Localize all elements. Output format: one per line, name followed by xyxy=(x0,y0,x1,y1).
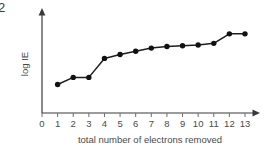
data-point xyxy=(211,41,216,46)
ionisation-energy-line-chart: 012345678910111213 log IE total number o… xyxy=(0,0,270,150)
data-point xyxy=(180,43,185,48)
x-axis-tick-label: 1 xyxy=(55,118,60,129)
figure-container: 2 012345678910111213 log IE total number… xyxy=(0,0,270,150)
data-point xyxy=(195,42,200,47)
data-point xyxy=(86,75,91,80)
x-axis-tick-label: 2 xyxy=(71,118,76,129)
x-axis-tick-label: 9 xyxy=(180,118,185,129)
y-axis xyxy=(39,8,46,113)
x-axis-tick-label: 10 xyxy=(193,118,204,129)
data-point xyxy=(227,31,232,36)
data-point xyxy=(55,82,60,87)
x-axis-tick-labels: 012345678910111213 xyxy=(39,118,250,129)
x-axis-tick-label: 7 xyxy=(149,118,154,129)
x-axis-tick-label: 8 xyxy=(164,118,169,129)
x-axis-title: total number of electrons removed xyxy=(78,134,222,145)
data-point xyxy=(149,45,154,50)
data-point xyxy=(164,44,169,49)
x-axis-tick-label: 13 xyxy=(240,118,251,129)
data-point xyxy=(71,75,76,80)
data-point xyxy=(242,31,247,36)
x-axis-tick-label: 6 xyxy=(133,118,138,129)
y-axis-title: log IE xyxy=(19,52,30,76)
x-axis-tick-label: 5 xyxy=(117,118,122,129)
x-axis-tick-label: 12 xyxy=(224,118,235,129)
data-series-line xyxy=(58,34,245,85)
data-point xyxy=(102,56,107,61)
x-axis-arrow-icon xyxy=(253,110,261,117)
x-axis-tick-label: 0 xyxy=(39,118,44,129)
data-point xyxy=(133,49,138,54)
x-axis-tick-label: 3 xyxy=(86,118,91,129)
x-axis-tick-label: 4 xyxy=(102,118,107,129)
y-axis-arrow-icon xyxy=(39,8,46,16)
data-point xyxy=(117,52,122,57)
x-axis-tick-label: 11 xyxy=(209,118,219,129)
